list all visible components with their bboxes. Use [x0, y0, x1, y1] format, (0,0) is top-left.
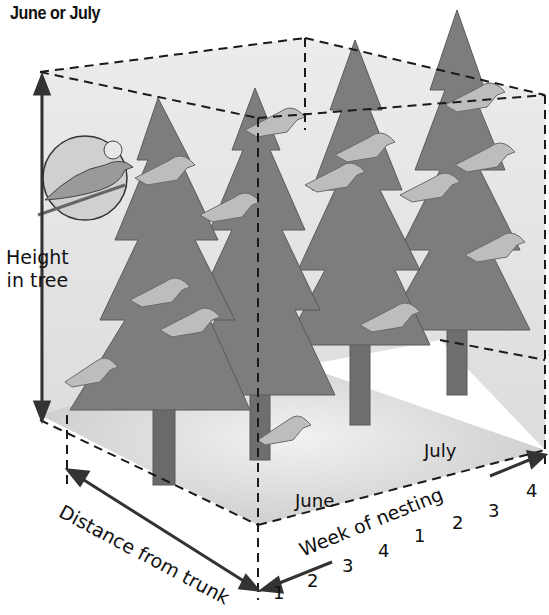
week-tick-june-4: 4	[378, 540, 389, 561]
height-label-line1: Height	[6, 246, 69, 269]
week-tick-july-3: 3	[488, 500, 499, 521]
arrowhead-upleft	[68, 470, 88, 485]
week-tick-june-3: 3	[342, 555, 353, 576]
week-tick-june-2: 2	[307, 570, 318, 591]
week-tick-july-4: 4	[526, 480, 537, 501]
height-label-line2: in tree	[6, 269, 69, 292]
arrowhead-right	[528, 452, 545, 467]
month-label-june: June	[295, 490, 334, 511]
month-label-july: July	[424, 440, 456, 461]
week-tick-july-1: 1	[414, 525, 425, 546]
week-tick-june-1: 1	[273, 582, 284, 603]
week-tick-july-2: 2	[452, 512, 463, 533]
height-axis-label: Height in tree	[6, 246, 69, 292]
